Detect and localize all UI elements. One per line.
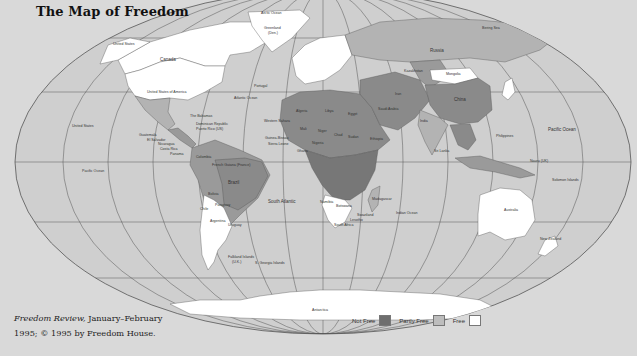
label-nicaragua: Nicaragua (158, 142, 174, 146)
label-french-guiana: French Guiana (France) (212, 163, 250, 167)
label-hawaii: United States (72, 124, 94, 128)
label-bahamas: The Bahamas (190, 114, 213, 118)
label-libya: Libya (325, 109, 334, 113)
label-niger: Niger (318, 129, 327, 133)
label-new-zealand: New Zealand (540, 237, 561, 241)
label-dominican-republic: Dominican Republic (196, 122, 228, 126)
label-nauru: Nauru (UK) (530, 159, 548, 163)
label-western-sahara: Western Sahara (264, 119, 290, 123)
label-solomon-islands: Solomon Islands (552, 178, 579, 182)
label-paraguay: Paraguay (215, 203, 231, 207)
label-puerto-rico: Puerto Rico (US) (196, 127, 223, 131)
label-bolivia: Bolivia (208, 192, 219, 196)
legend-label-not-free: Not Free (352, 318, 375, 324)
copyright: 1995; © 1995 by Freedom House. (14, 326, 162, 341)
label-pacific-ocean-east: Pacific Ocean (548, 127, 576, 132)
label-guinea-bissau: Guinea-Bissau (265, 136, 289, 140)
label-arctic-ocean: Arctic Ocean (261, 11, 282, 15)
label-antarctica: Antarctica (312, 308, 328, 312)
label-sierra-leone: Sierra Leone (268, 142, 289, 146)
label-argentina: Argentina (210, 219, 225, 223)
label-swaziland: Swaziland (357, 213, 373, 217)
label-algeria: Algeria (296, 109, 307, 113)
label-mali: Mali (300, 127, 307, 131)
label-russia: Russia (430, 48, 444, 53)
label-colombia: Colombia (196, 155, 211, 159)
world-map: Arctic Ocean Greenland (Den.) United Sta… (0, 0, 637, 356)
legend-swatch-not-free (379, 315, 391, 326)
label-usa: United States of America (147, 90, 187, 94)
publication-date: January–February (86, 313, 163, 323)
label-ghana: Ghana (297, 149, 308, 153)
label-australia: Australia (504, 208, 518, 212)
label-india: India (420, 119, 428, 123)
label-south-atlantic: South Atlantic (268, 199, 296, 204)
label-lesotho: Lesotho (350, 218, 363, 222)
label-chad: Chad (334, 133, 343, 137)
label-alaska: United States (113, 42, 135, 46)
label-kazakhstan: Kazakhstan (404, 69, 423, 73)
label-botswana: Botswana (336, 204, 352, 208)
label-uruguay: Uruguay (228, 223, 242, 227)
label-panama: Panama (170, 152, 183, 156)
label-ethiopia: Ethiopia (370, 137, 383, 141)
label-pacific-ocean-west: Pacific Ocean (82, 169, 104, 173)
credit-line: Freedom Review, January–February 1995; ©… (14, 311, 162, 341)
label-iran: Iran (395, 92, 401, 96)
label-sudan: Sudan (348, 135, 358, 139)
label-atlantic-ocean: Atlantic Ocean (234, 96, 257, 100)
label-falkland-islands: Falkland Islands (228, 255, 254, 259)
label-greenland: Greenland (264, 26, 281, 30)
label-madagascar: Madagascar (372, 197, 393, 201)
map-title: The Map of Freedom (36, 4, 189, 19)
label-portugal: Portugal (254, 84, 268, 88)
label-south-africa: South Africa (334, 223, 353, 227)
label-nigeria: Nigeria (312, 141, 323, 145)
label-namibia: Namibia (320, 200, 333, 204)
publication-name: Freedom Review, (14, 313, 86, 323)
legend-swatch-partly-free (433, 315, 445, 326)
label-s-georgia: S. Georgia Islands (255, 261, 285, 265)
label-indian-ocean: Indian Ocean (396, 211, 417, 215)
label-costa-rica: Costa Rica (160, 147, 178, 151)
label-greenland-sub: (Den.) (268, 31, 278, 35)
legend: Not Free Partly Free Free (352, 315, 489, 326)
legend-label-free: Free (453, 318, 465, 324)
legend-label-partly-free: Partly Free (399, 318, 428, 324)
label-brazil: Brazil (228, 180, 239, 185)
label-falkland-sub: (U.K.) (232, 260, 241, 264)
legend-swatch-free (469, 315, 481, 326)
label-saudi-arabia: Saudi Arabia (378, 107, 398, 111)
label-sri-lanka: Sri Lanka (434, 149, 449, 153)
label-mongolia: Mongolia (446, 72, 461, 76)
label-canada: Canada (160, 57, 176, 62)
label-guatemala: Guatemala (139, 133, 157, 137)
label-china: China (454, 97, 466, 102)
land-australia (478, 188, 535, 240)
label-bering-sea: Bering Sea (482, 26, 500, 30)
label-egypt: Egypt (348, 112, 357, 116)
label-philippines: Philippines (496, 134, 514, 138)
label-chile: Chile (200, 207, 208, 211)
